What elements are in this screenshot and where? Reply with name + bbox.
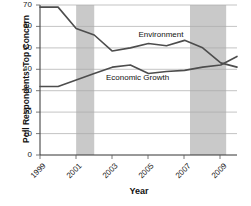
series-label-economic-growth: Economic Growth — [106, 73, 169, 82]
x-axis-title: Year — [40, 186, 238, 196]
y-tick-label: 0 — [14, 151, 32, 159]
y-tick-marks — [36, 5, 40, 155]
line-chart: 010203040506070 199920012003200520072009… — [0, 0, 251, 206]
recession-band-2 — [190, 5, 226, 155]
series-label-environment: Environment — [139, 30, 184, 39]
recession-band-1 — [76, 5, 94, 155]
x-tick-marks — [40, 155, 220, 159]
y-axis-title: Poll Respondents' Top Concern — [21, 9, 31, 149]
y-tick-label: 70 — [14, 1, 32, 9]
